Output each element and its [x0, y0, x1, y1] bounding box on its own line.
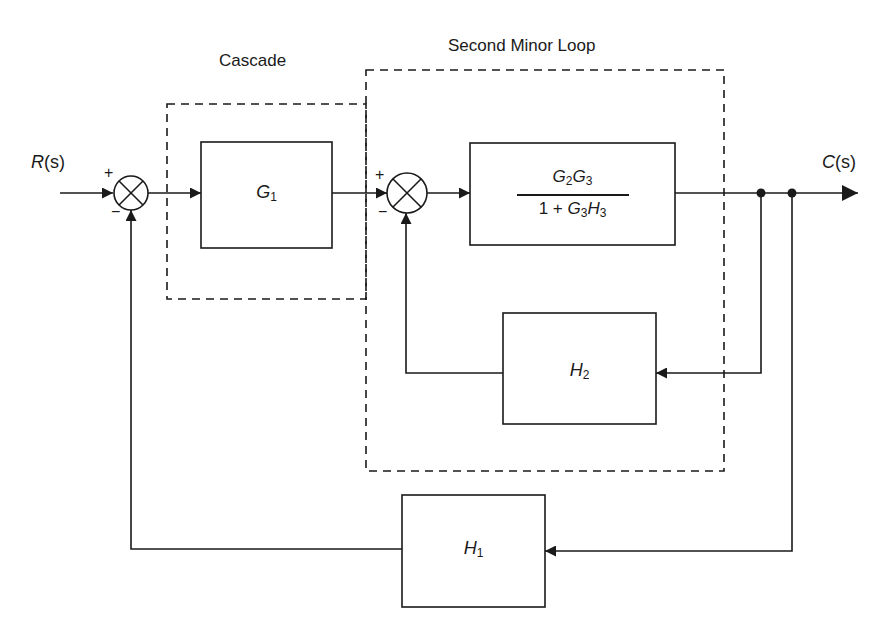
g1-subscript: 1	[270, 190, 277, 204]
h1-subscript: 1	[477, 546, 484, 560]
h2-feedback-output-line	[406, 213, 503, 373]
second-minor-loop-title: Second Minor Loop	[448, 36, 595, 56]
num-g: G	[553, 167, 566, 186]
h1-feedback-output-line	[131, 210, 402, 549]
fraction-bar	[517, 194, 629, 196]
output-signal-name: C	[822, 152, 835, 172]
den-h-sub: 3	[600, 206, 607, 220]
num-g-sub: 2	[566, 174, 573, 188]
num-g2: G	[573, 167, 586, 186]
den-lead: 1 +	[539, 199, 568, 218]
forward-transfer-function: G2G3 1 + G3H3	[470, 166, 675, 224]
input-signal-label: R(s)	[31, 152, 65, 173]
h2-symbol: H	[570, 360, 583, 380]
output-signal-arg: (s)	[835, 152, 856, 172]
sum1-minus-sign: −	[111, 203, 120, 221]
forward-denominator: 1 + G3H3	[539, 198, 607, 224]
h1-symbol: H	[464, 538, 477, 558]
input-signal-arg: (s)	[44, 152, 65, 172]
summing-junction-2	[387, 173, 427, 213]
sum2-plus-sign: +	[375, 166, 384, 184]
den-g: G	[567, 199, 580, 218]
h2-subscript: 2	[583, 368, 590, 382]
takeoff-point-h2	[757, 189, 766, 198]
forward-numerator: G2G3	[553, 166, 593, 192]
input-signal-name: R	[31, 152, 44, 172]
den-h: H	[587, 199, 599, 218]
cascade-title: Cascade	[219, 51, 286, 71]
sum2-minus-sign: −	[378, 203, 387, 221]
sum1-plus-sign: +	[104, 164, 113, 182]
h2-label: H2	[503, 360, 656, 382]
second-minor-loop-region	[366, 70, 724, 471]
g1-label: G1	[201, 182, 332, 204]
g1-symbol: G	[256, 182, 270, 202]
num-g2-sub: 3	[586, 174, 593, 188]
takeoff-point-h1	[788, 189, 797, 198]
output-signal-label: C(s)	[822, 152, 856, 173]
h1-label: H1	[402, 538, 545, 560]
